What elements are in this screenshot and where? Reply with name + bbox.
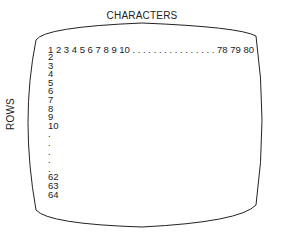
row-number: 64 [48,191,59,200]
rows-axis-label: ROWS [5,98,16,130]
screen-outline [0,0,284,242]
character-positions-row: 1 2 3 4 5 6 7 8 9 10 . . . . . . . . . .… [48,44,254,55]
row-numbers-column: 2 3 4 5 6 7 8 9 10 . . . . . 62 63 64 [48,53,59,199]
